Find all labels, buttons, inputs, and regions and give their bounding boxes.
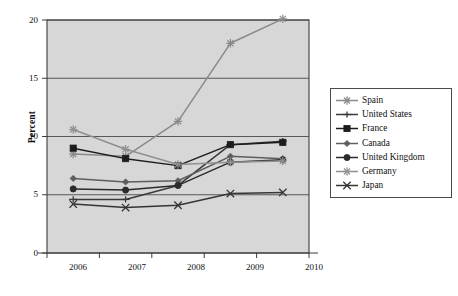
legend-label: France [360,123,387,134]
legend-item-germany[interactable]: Germany [334,164,448,178]
legend-item-spain[interactable]: Spain [334,93,448,107]
legend-marker-diamond-icon [334,137,360,150]
legend-marker-star-icon [334,165,360,178]
legend-marker-cross-icon [334,179,360,192]
legend-marker-circle-icon [334,151,360,164]
legend-label: Japan [360,180,383,191]
legend-marker-square-icon [334,122,360,135]
legend-item-canada[interactable]: Canada [334,136,448,150]
legend: Spain United States France Canada United… [330,88,452,198]
legend-item-france[interactable]: France [334,122,448,136]
legend-label: Spain [360,95,383,106]
legend-label: Germany [360,166,397,177]
legend-label: United Kingdom [360,152,425,163]
legend-marker-asterisk-icon [334,94,360,107]
legend-item-united-states[interactable]: United States [334,107,448,121]
legend-item-united-kingdom[interactable]: United Kingdom [334,150,448,164]
chart-figure: Percent 20 15 10 5 0 2006 2007 2008 2009… [0,0,458,296]
legend-marker-plus-icon [334,108,360,121]
legend-item-japan[interactable]: Japan [334,179,448,193]
legend-label: United States [360,109,412,120]
legend-label: Canada [360,138,390,149]
